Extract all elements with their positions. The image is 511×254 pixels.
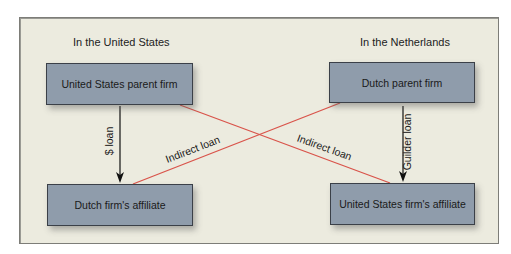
dollar-loan-label: $ loan	[103, 121, 115, 161]
box-us-parent-firm-label: United States parent firm	[61, 78, 177, 90]
box-dutch-firm-affiliate: Dutch firm's affiliate	[47, 184, 193, 226]
box-us-firm-affiliate: United States firm's affiliate	[330, 183, 475, 225]
box-dutch-firm-affiliate-label: Dutch firm's affiliate	[74, 199, 165, 211]
box-us-firm-affiliate-label: United States firm's affiliate	[339, 198, 466, 210]
box-dutch-parent-firm-label: Dutch parent firm	[362, 77, 443, 89]
box-dutch-parent-firm: Dutch parent firm	[329, 62, 475, 103]
guilder-loan-label: Guilder loan	[401, 112, 413, 172]
box-us-parent-firm: United States parent firm	[46, 63, 193, 105]
